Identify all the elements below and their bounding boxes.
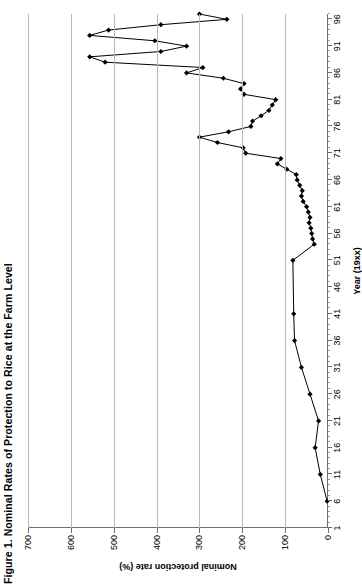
x-axis-minor-tick [328,61,330,62]
x-axis-tick-label: 31 [333,362,342,372]
x-axis-minor-tick [328,431,330,432]
gridline [114,14,115,528]
x-axis-minor-tick [328,324,330,325]
data-point-marker [270,102,275,107]
x-axis-minor-tick [328,184,330,185]
x-axis-minor-tick [328,270,330,271]
x-axis-minor-tick [328,29,330,30]
data-point-marker [292,338,297,343]
x-axis-minor-tick [328,463,330,464]
data-point-marker [297,183,302,188]
y-axis-tick-label: 600 [66,535,75,550]
data-point-marker [299,193,304,198]
x-axis-tick-label: 71 [333,148,342,158]
x-axis-tick-label: 51 [333,255,342,265]
x-axis-minor-tick [328,24,330,25]
data-point-marker [221,76,226,81]
x-axis-minor-tick [328,190,330,191]
x-axis-minor-tick [328,120,330,121]
data-point-marker [301,199,306,204]
x-axis-minor-tick [328,302,330,303]
data-point-marker [295,177,300,182]
data-point-marker [309,231,314,236]
x-axis-minor-tick [328,77,330,78]
x-axis-minor-tick [328,93,330,94]
x-axis-minor-tick [328,200,330,201]
x-axis-minor-tick [328,243,330,244]
x-axis-minor-tick [328,522,330,523]
data-series-line [28,14,328,528]
data-point-marker [158,49,163,54]
data-point-marker [226,129,231,134]
y-axis-tick [28,528,29,533]
y-axis-tick-label: 0 [324,535,333,540]
data-point-marker [87,54,92,59]
x-axis-minor-tick [328,195,330,196]
x-axis-minor-tick [328,409,330,410]
data-point-marker [250,118,255,123]
data-point-marker [243,151,248,156]
y-axis-tick-label: 500 [109,535,118,550]
data-point-marker [307,220,312,225]
data-point-marker [224,17,229,22]
x-axis-minor-tick [328,511,330,512]
gridline [285,14,286,528]
y-axis-tick [328,528,329,533]
y-axis-tick [71,528,72,533]
y-axis-tick [157,528,158,533]
x-axis-minor-tick [328,168,330,169]
x-axis-minor-tick [328,452,330,453]
page-title: Figure 1. Nominal Rates of Protection to… [2,263,14,584]
data-point-marker [184,70,189,75]
x-axis-tick-label: 21 [333,416,342,426]
data-point-marker [318,472,323,477]
x-axis-minor-tick [328,50,330,51]
x-axis-minor-tick [328,238,330,239]
data-point-marker [294,172,299,177]
x-axis-minor-tick [328,275,330,276]
x-axis-tick-label: 76 [333,121,342,131]
y-axis-title: Nominal protection rate (%) [28,562,328,572]
x-axis-tick-label: 91 [333,41,342,51]
x-axis-minor-tick [328,441,330,442]
x-axis-minor-tick [328,281,330,282]
data-point-marker [291,311,296,316]
x-axis-title: Year (19xx) [352,14,362,528]
x-axis-minor-tick [328,490,330,491]
x-axis-minor-tick [328,291,330,292]
x-axis-tick-label: 11 [333,470,342,479]
gridline [157,14,158,528]
x-axis-minor-tick [328,115,330,116]
plot-area: 0100200300400500600700161116212631364146… [28,14,328,528]
x-axis-minor-tick [328,377,330,378]
x-axis-tick-label: 26 [333,389,342,399]
x-axis-minor-tick [328,436,330,437]
data-point-marker [306,210,311,215]
x-axis-tick-label: 56 [333,229,342,239]
x-axis-minor-tick [328,174,330,175]
x-axis-minor-tick [328,506,330,507]
data-point-marker [200,65,205,70]
x-axis-minor-tick [328,457,330,458]
x-axis-minor-tick [328,399,330,400]
x-axis-minor-tick [328,479,330,480]
x-axis-minor-tick [328,56,330,57]
gridline [242,14,243,528]
y-axis-tick-label: 700 [24,535,33,550]
x-axis-minor-tick [328,484,330,485]
x-axis-minor-tick [328,254,330,255]
x-axis-minor-tick [328,211,330,212]
x-axis-minor-tick [328,222,330,223]
x-axis-tick-label: 41 [333,309,342,319]
x-axis-minor-tick [328,142,330,143]
data-point-marker [307,215,312,220]
x-axis-minor-tick [328,334,330,335]
x-axis-minor-tick [328,13,330,14]
x-axis-minor-tick [328,404,330,405]
x-axis-minor-tick [328,227,330,228]
x-axis-minor-tick [328,109,330,110]
x-axis-tick-label: 61 [333,202,342,212]
